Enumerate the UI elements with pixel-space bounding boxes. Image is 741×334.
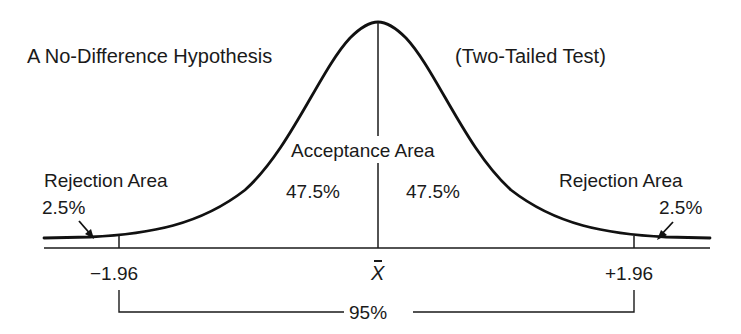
confidence-bracket-left (119, 290, 344, 312)
rejection-right-pct: 2.5% (659, 198, 702, 217)
right-arrowhead-icon (657, 230, 667, 240)
confidence-bracket-right (413, 290, 634, 312)
title-left: A No-Difference Hypothesis (27, 46, 272, 66)
rejection-right-label: Rejection Area (559, 171, 683, 190)
axis-left-tick-label: −1.96 (90, 264, 138, 283)
axis-right-tick-label: +1.96 (605, 264, 653, 283)
acceptance-left-pct: 47.5% (286, 182, 340, 201)
rejection-left-label: Rejection Area (44, 171, 168, 190)
mean-symbol: X (371, 262, 384, 284)
overbar (374, 260, 382, 262)
rejection-left-pct: 2.5% (42, 198, 85, 217)
axis-center-mean-label: X (371, 263, 384, 283)
title-right: (Two-Tailed Test) (455, 46, 606, 66)
acceptance-right-pct: 47.5% (406, 182, 460, 201)
acceptance-area-label: Acceptance Area (291, 141, 435, 160)
confidence-bracket-label: 95% (349, 303, 387, 322)
